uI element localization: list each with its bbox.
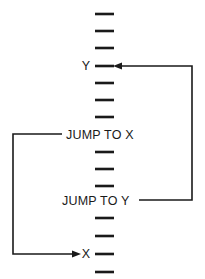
jump-target-label-x: X [82,247,91,261]
instruction-dash [95,116,114,119]
instruction-dash [95,168,114,171]
program-flow-diagram: YXJUMP TO XJUMP TO Y [0,0,205,279]
jump-to-x-flow-arrowhead-icon [72,251,81,258]
instruction-dash [95,65,114,68]
jump-instruction-to-x: JUMP TO X [66,128,134,142]
instruction-dash [95,235,114,238]
diagram-canvas: YXJUMP TO XJUMP TO Y [0,0,205,279]
instruction-dash [95,151,114,154]
instruction-dash [95,13,114,16]
instruction-dash [95,82,114,85]
instruction-dash [95,30,114,33]
instruction-dash [95,271,114,274]
diagram-label-group: YXJUMP TO XJUMP TO Y [62,59,134,261]
instruction-dash-group [95,13,114,274]
flow-line-group [13,63,192,258]
jump-instruction-to-y: JUMP TO Y [62,194,130,208]
instruction-dash [95,99,114,102]
jump-to-y-flow-arrowhead-icon [113,63,122,70]
instruction-dash [95,185,114,188]
instruction-dash [95,217,114,220]
jump-target-label-y: Y [82,59,91,73]
instruction-dash [95,253,114,256]
instruction-dash [95,47,114,50]
